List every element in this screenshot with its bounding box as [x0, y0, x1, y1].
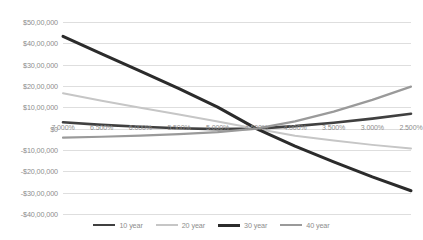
- y-axis-tick-label: -$20,00,000: [21, 167, 58, 176]
- x-axis-tick-label: 2.500%: [399, 124, 422, 131]
- x-axis-tick-label: 6.500%: [90, 124, 113, 131]
- legend-swatch-icon: [218, 224, 240, 227]
- legend-label: 20 year: [182, 221, 205, 230]
- legend-item-20-year[interactable]: 20 year: [156, 221, 205, 230]
- x-axis-tick-label: 5.500%: [167, 124, 190, 131]
- x-axis-tick-label: 6.000%: [129, 124, 152, 131]
- y-axis-tick-label: $50,00,000: [23, 18, 58, 27]
- legend-item-30-year[interactable]: 30 year: [218, 221, 267, 230]
- legend-label: 40 year: [306, 221, 329, 230]
- legend-swatch-icon: [280, 224, 302, 226]
- y-axis-tick-label: $10,00,000: [23, 103, 58, 112]
- y-axis-tick-label: $30,00,000: [23, 60, 58, 69]
- x-axis-tick-label: 3.000%: [361, 124, 384, 131]
- y-axis-tick-label: -$30,00,000: [21, 188, 58, 197]
- series-lines: [63, 22, 411, 214]
- line-chart: $50,00,000$40,00,000$30,00,000$20,00,000…: [0, 0, 423, 240]
- series-line-30-year: [63, 36, 411, 190]
- x-axis-labels: 7.000%6.500%6.000%5.500%5.000%4.500%4.00…: [63, 124, 411, 136]
- legend-swatch-icon: [156, 224, 178, 226]
- x-axis-tick-label: 5.000%: [206, 124, 229, 131]
- y-axis-labels: $50,00,000$40,00,000$30,00,000$20,00,000…: [0, 22, 58, 214]
- x-axis-tick-label: 7.000%: [51, 124, 74, 131]
- legend-swatch-icon: [93, 224, 115, 226]
- legend-label: 10 year: [119, 221, 142, 230]
- x-axis-tick-label: 4.000%: [283, 124, 306, 131]
- legend-item-10-year[interactable]: 10 year: [93, 221, 142, 230]
- chart-legend: 10 year20 year30 year40 year: [0, 214, 423, 236]
- legend-label: 30 year: [244, 221, 267, 230]
- y-axis-tick-label: -$10,00,000: [21, 146, 58, 155]
- x-axis-tick-label: 4.500%: [245, 124, 268, 131]
- y-axis-tick-label: $40,00,000: [23, 39, 58, 48]
- legend-item-40-year[interactable]: 40 year: [280, 221, 329, 230]
- x-axis-tick-label: 3.500%: [322, 124, 345, 131]
- y-axis-tick-label: $20,00,000: [23, 82, 58, 91]
